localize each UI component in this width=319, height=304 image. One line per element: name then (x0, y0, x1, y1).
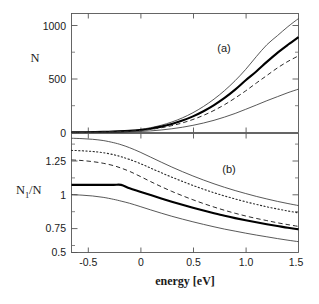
figure-container: 1000 500 0 N (a) (0, 0, 319, 304)
panel-b-ytick-05: 0.5 (51, 246, 66, 258)
curve-a-mean-thick (72, 37, 299, 132)
panel-b-yaxis-base: N (16, 183, 25, 197)
panel-a-curves (72, 19, 299, 133)
curve-b-lower-envelope (72, 195, 299, 242)
curve-a-lower-envelope (72, 89, 299, 132)
panel-a-ytick-0: 0 (60, 127, 66, 139)
panel-a-yaxis-title: N (30, 51, 39, 65)
panel-a-label: (a) (217, 42, 230, 54)
panel-b-x-ticks-top (88, 134, 246, 139)
panel-b-curves (72, 138, 299, 241)
panel-b-x-ticks-bottom (88, 248, 246, 253)
panel-b-label: (b) (222, 163, 235, 175)
curve-b-reference-thick (72, 185, 299, 230)
xtick-1.0: 1.0 (239, 256, 254, 268)
x-axis-labels: -0.5 0 0.5 1.0 1.5 (79, 256, 303, 268)
curve-b-dashed-model (72, 160, 299, 227)
panel-b-ytick-075: 0.75 (46, 222, 67, 234)
panel-b: 1.25 1 0.75 0.5 N 1 /N (b) (16, 134, 299, 259)
xtick--0.5: -0.5 (79, 256, 97, 268)
curve-a-upper-envelope (72, 19, 299, 133)
panel-a-ytick-500: 500 (48, 73, 66, 85)
panel-b-yaxis-tail: /N (29, 183, 42, 197)
panel-a-x-ticks-top (88, 14, 246, 19)
xtick-0.5: 0.5 (186, 256, 201, 268)
panel-a-ytick-1000: 1000 (43, 20, 67, 32)
panel-a-frame (72, 14, 299, 133)
curve-b-upper-envelope (72, 138, 299, 205)
curve-a-model-dashed (72, 56, 299, 133)
curve-b-dotted-model (72, 150, 299, 212)
panel-b-ytick-1: 1 (60, 189, 66, 201)
panel-b-ytick-125: 1.25 (46, 155, 67, 167)
panel-a: 1000 500 0 N (a) (30, 14, 298, 139)
xtick-1.5: 1.5 (289, 256, 304, 268)
panel-b-frame (72, 134, 299, 253)
panel-b-yaxis-title: N 1 /N (16, 183, 42, 200)
xtick-0: 0 (138, 256, 144, 268)
x-axis-title: energy [eV] (155, 274, 215, 288)
chart-canvas: 1000 500 0 N (a) (0, 0, 319, 304)
